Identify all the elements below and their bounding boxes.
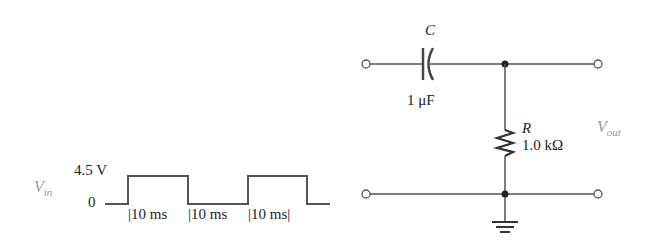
schematic (0, 0, 657, 252)
output-terminal-top (594, 60, 602, 68)
interval-2: |10 ms (188, 206, 227, 223)
capacitor-value: 1 μF (407, 92, 435, 109)
vout-label: Vout (597, 118, 621, 138)
vin-label: Vin (34, 178, 52, 198)
interval-3: |10 ms| (248, 206, 290, 223)
capacitor-name: C (425, 22, 435, 39)
resistor-zigzag (497, 130, 513, 156)
output-terminal-bottom (594, 190, 602, 198)
ground-icon (492, 222, 518, 232)
input-terminal-top (362, 60, 370, 68)
square-wave (105, 176, 330, 204)
resistor-name: R (522, 120, 531, 137)
high-level-label: 4.5 V (74, 162, 107, 179)
interval-1: |10 ms (128, 206, 167, 223)
resistor-value: 1.0 kΩ (522, 137, 563, 154)
junction-bottom (502, 191, 509, 198)
low-level-label: 0 (88, 194, 96, 211)
input-terminal-bottom (362, 190, 370, 198)
